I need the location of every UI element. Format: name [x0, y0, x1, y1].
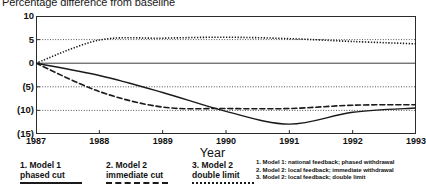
x-tick-label: 1992 [343, 136, 363, 146]
legend-swatch-dashed [106, 182, 168, 187]
legend-entry-2: 2. Model 2immediate cut [106, 160, 180, 187]
plot-area [36, 16, 416, 134]
legend-entry-1: 1. Model 1phased cut [20, 160, 94, 187]
x-axis-title: Year [0, 146, 425, 160]
legend-entry-label-line1: 3. Model 2 [192, 160, 266, 170]
legend-entry-label-line2: immediate cut [106, 170, 180, 180]
legend-swatch-dotted [192, 182, 254, 187]
legend-description-line-1: 1. Model 1: national feedback; phased wi… [256, 159, 424, 167]
legend-description-line-3: 3. Model 2: local feedback; double limit [256, 174, 424, 182]
y-tick-label: 10 [2, 11, 34, 21]
y-tick-label: 5 [2, 35, 34, 45]
y-tick-label: (10) [2, 106, 34, 116]
x-tick-label: 1989 [153, 136, 173, 146]
legend-left: 1. Model 1phased cut2. Model 2immediate … [20, 160, 266, 187]
series-line-2 [36, 63, 416, 109]
series-line-1 [36, 63, 416, 124]
x-tick-label: 1987 [26, 136, 46, 146]
legend-right: 1. Model 1: national feedback; phased wi… [256, 159, 424, 182]
legend-description-line-2: 2. Model 2: local feedback; immediate wi… [256, 167, 424, 175]
y-axis: 1050(5)(10)(15) [0, 16, 34, 134]
legend-entry-label-line2: phased cut [20, 170, 94, 180]
chart-title: Percentage difference from baseline [2, 0, 175, 8]
legend-entry-label-line1: 2. Model 2 [106, 160, 180, 170]
legend-entry-3: 3. Model 2double limit [192, 160, 266, 187]
y-tick-label: (5) [2, 82, 34, 92]
chart-plot [36, 16, 416, 134]
x-tick-label: 1993 [406, 136, 426, 146]
legend-entry-label-line2: double limit [192, 170, 266, 180]
legend-entry-label-line1: 1. Model 1 [20, 160, 94, 170]
x-tick-label: 1990 [216, 136, 236, 146]
x-tick-label: 1988 [89, 136, 109, 146]
series-line-3 [36, 37, 416, 63]
legend-swatch-solid [20, 182, 82, 187]
x-tick-label: 1991 [279, 136, 299, 146]
y-tick-label: 0 [2, 58, 34, 68]
